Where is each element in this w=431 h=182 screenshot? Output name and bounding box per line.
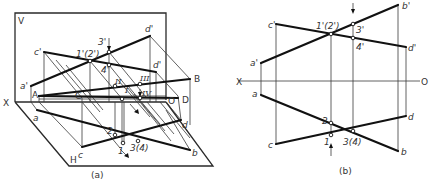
label-1-b: 1 (324, 137, 330, 147)
label-4-prime-b: 4' (356, 42, 364, 52)
label-III: III (139, 74, 150, 83)
label-d-prime-a: d' (153, 60, 161, 70)
label-O-a: O (168, 96, 175, 106)
label-a-prime-b: a' (250, 58, 258, 68)
label-a-prime-a: a' (20, 81, 28, 91)
diagram-canvas: V H X c' 1'(2') 3' d' d' a' 4' A C B D O… (0, 0, 431, 182)
label-o-b: O (421, 77, 428, 87)
figure-b: c' 1'(2') 3' 4' b' d' a' X O a 2 1 3(4) … (236, 1, 428, 176)
label-3-4-b: 3(4) (343, 137, 361, 147)
label-h-plane: H (70, 155, 77, 165)
label-4-prime-a: 4' (101, 65, 109, 75)
label-v-plane: V (18, 16, 25, 26)
label-b-h-a: b (192, 148, 198, 158)
line-ab-h (37, 110, 190, 150)
label-D: D (182, 95, 189, 105)
label-a-h-b: a (252, 89, 258, 99)
label-c-h-a: c (78, 150, 83, 160)
figure-a: V H X c' 1'(2') 3' d' d' a' 4' A C B D O… (3, 13, 213, 180)
label-b-h-b: b (401, 147, 407, 157)
arrow-down-icon (351, 9, 355, 14)
label-3-prime-b: 3' (356, 25, 364, 35)
label-c-h-b: c (268, 140, 273, 150)
label-d-prime-b: d' (408, 43, 416, 53)
caption-a: (a) (91, 170, 104, 180)
label-3-4-a: 3(4) (130, 143, 148, 153)
label-x-b: X (236, 77, 242, 87)
label-IV: IV (141, 89, 152, 98)
label-d-prime-top-a: d' (145, 24, 153, 34)
label-II: II (114, 77, 122, 86)
label-3-prime-a: 3' (98, 37, 106, 47)
label-x-a: X (3, 98, 9, 108)
label-2-a: 2 (107, 126, 113, 136)
label-A: A (32, 90, 39, 100)
caption-b: (b) (339, 166, 352, 176)
label-a-h-a: a (33, 113, 39, 123)
label-b-prime-b: b' (402, 1, 410, 11)
label-d-h-b: d (408, 112, 414, 122)
label-d-h-a: d (182, 120, 188, 130)
line-cd-h-b (276, 116, 406, 144)
label-B: B (194, 74, 200, 84)
label-C: C (75, 91, 81, 101)
label-1-2-prime-a: 1'(2') (76, 49, 99, 59)
line-cd-v-b (276, 24, 406, 47)
line-cd-v (44, 52, 156, 72)
label-I: I (124, 86, 129, 95)
label-1-2-prime-b: 1'(2') (316, 21, 339, 31)
label-c-prime-b: c' (268, 20, 275, 30)
label-1-a: 1 (118, 146, 124, 156)
label-2-b: 2 (322, 116, 328, 126)
label-c-prime-a: c' (34, 47, 41, 57)
